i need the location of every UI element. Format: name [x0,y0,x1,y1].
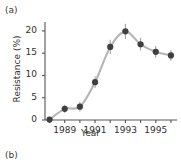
y-axis-tick-label: 15 [13,47,37,57]
data-point-marker [77,104,83,110]
resistance-vs-year-chart: Resistance (%) Year 05101520198919911993… [0,0,181,140]
y-axis-tick-label: 20 [13,25,37,35]
data-point-marker [122,28,128,34]
x-axis-tick-label: 1989 [50,125,80,135]
y-axis-tick-label: 5 [13,92,37,102]
panel-b-label: (b) [5,150,18,160]
data-point-marker [107,44,113,50]
data-point-marker [46,116,52,122]
y-axis-tick-label: 10 [13,69,37,79]
data-point-marker [137,41,143,47]
data-point-marker [153,49,159,55]
figure-container: (a) Resistance (%) Year 0510152019891991… [0,0,181,165]
y-axis-tick-label: 0 [13,114,37,124]
data-point-marker [168,52,174,58]
x-axis-tick-label: 1995 [141,125,171,135]
data-point-marker [92,79,98,85]
x-axis-tick-label: 1991 [80,125,110,135]
x-axis-tick-label: 1993 [110,125,140,135]
data-point-marker [62,106,68,112]
